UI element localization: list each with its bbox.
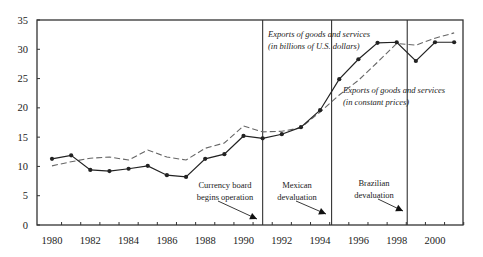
series-label-constant: (in constant prices) <box>343 97 409 107</box>
exports-line-chart: 05101520253035 1980198219841986198819901… <box>0 0 483 257</box>
series-label-usd: Exports of goods and services <box>267 29 371 39</box>
y-tick-label: 10 <box>18 161 29 172</box>
data-point-marker <box>356 57 360 61</box>
data-point-marker <box>127 167 131 171</box>
y-tick-label: 5 <box>23 190 28 201</box>
event-annotations: Currency boardbegins operationMexicandev… <box>197 178 403 219</box>
event-annotation-text: Mexican <box>282 180 312 190</box>
y-tick-label: 20 <box>18 102 29 113</box>
x-tick-label: 1984 <box>118 235 140 246</box>
data-point-marker <box>337 77 341 81</box>
x-tick-label: 1988 <box>195 235 216 246</box>
series-line <box>52 42 454 177</box>
x-tick-label: 1980 <box>42 235 63 246</box>
data-point-marker <box>452 40 456 44</box>
data-point-marker <box>203 157 207 161</box>
event-annotation-text: begins operation <box>197 192 254 202</box>
y-tick-label: 15 <box>18 132 29 143</box>
x-tick-label: 1994 <box>310 235 332 246</box>
data-point-marker <box>395 40 399 44</box>
x-tick-label: 1982 <box>80 235 101 246</box>
data-point-marker <box>318 108 322 112</box>
data-point-marker <box>107 169 111 173</box>
data-point-marker <box>165 173 169 177</box>
data-point-marker <box>261 136 265 140</box>
data-point-marker <box>146 164 150 168</box>
event-annotation-text: Currency board <box>198 180 252 190</box>
data-point-marker <box>433 40 437 44</box>
series-usd <box>50 40 456 179</box>
y-tick-label: 35 <box>18 15 29 26</box>
series-labels: Exports of goods and services(in billion… <box>267 29 446 107</box>
x-tick-label: 1990 <box>233 235 254 246</box>
data-point-marker <box>280 132 284 136</box>
y-tick-label: 25 <box>18 73 29 84</box>
data-point-marker <box>184 175 188 179</box>
y-tick-label: 30 <box>18 44 29 55</box>
data-point-marker <box>88 168 92 172</box>
x-tick-label: 1996 <box>348 235 369 246</box>
event-annotation-text: devaluation <box>354 190 394 200</box>
x-tick-label: 1992 <box>271 235 292 246</box>
event-annotation-text: Brazilian <box>358 178 390 188</box>
series-label-usd: (in billions of U.S. dollars) <box>268 41 360 51</box>
data-point-marker <box>375 41 379 45</box>
data-point-marker <box>241 134 245 138</box>
data-point-marker <box>50 157 54 161</box>
x-tick-label: 2000 <box>425 235 446 246</box>
data-point-marker <box>414 59 418 63</box>
data-point-marker <box>222 152 226 156</box>
data-point-marker <box>69 153 73 157</box>
x-tick-label: 1986 <box>156 235 177 246</box>
series-label-constant: Exports of goods and services <box>342 85 446 95</box>
y-tick-label: 0 <box>23 220 28 231</box>
x-tick-label: 1998 <box>386 235 407 246</box>
event-annotation-text: devaluation <box>277 192 317 202</box>
data-point-marker <box>299 125 303 129</box>
